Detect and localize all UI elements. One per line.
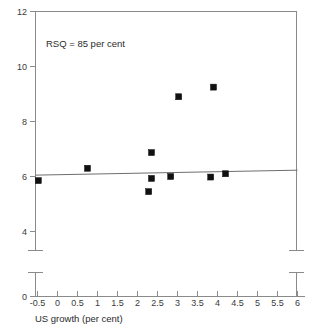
y-tick-label: 8 (22, 117, 27, 127)
x-tick-label: 3.5 (191, 298, 204, 308)
x-tick-label: 5 (255, 298, 260, 308)
data-point-marker (168, 174, 174, 180)
x-tick-label: 0 (55, 298, 60, 308)
data-point-marker (176, 94, 182, 100)
x-tick-label: 2 (135, 298, 140, 308)
scatter-chart: 12 10 8 6 4 0 -0.5 0 0 (0, 0, 315, 331)
data-point-group (35, 84, 228, 195)
x-tick-label: 1.5 (111, 298, 124, 308)
x-tick-label: 4 (215, 298, 220, 308)
data-point-marker (223, 171, 229, 177)
y-tick-labels: 12 10 8 6 4 0 (17, 7, 27, 302)
x-axis-title: US growth (per cent) (35, 313, 123, 324)
data-point-marker (208, 174, 214, 180)
data-point-marker (35, 178, 41, 184)
data-point-marker (211, 84, 217, 90)
x-tick-label: 1 (95, 298, 100, 308)
data-point-marker (149, 150, 155, 156)
trendline (36, 170, 298, 175)
rsq-annotation: RSQ = 85 per cent (46, 38, 125, 49)
x-tick-label: 0.5 (71, 298, 84, 308)
regression-line (36, 170, 298, 175)
x-tick-label: 6 (295, 298, 300, 308)
chart-canvas: 12 10 8 6 4 0 -0.5 0 0 (0, 0, 315, 331)
y-tick-marks (30, 12, 36, 297)
x-tick-label: 4.5 (231, 298, 244, 308)
y-tick-label: 6 (22, 172, 27, 182)
x-tick-marks (38, 291, 298, 297)
x-tick-label: 2.5 (151, 298, 164, 308)
y-tick-label: 0 (22, 292, 27, 302)
y-tick-label: 10 (17, 62, 27, 72)
x-tick-label: 5.5 (271, 298, 284, 308)
y-tick-label: 12 (17, 7, 27, 17)
x-tick-labels: -0.5 0 0.5 1 1.5 2 2.5 3 3.5 4 4.5 5 5.5… (30, 298, 300, 308)
data-point-marker (149, 175, 155, 181)
y-tick-label: 4 (22, 227, 27, 237)
data-point-marker (146, 189, 152, 195)
x-tick-label: -0.5 (30, 298, 46, 308)
x-tick-label: 3 (175, 298, 180, 308)
data-point-marker (85, 165, 91, 171)
